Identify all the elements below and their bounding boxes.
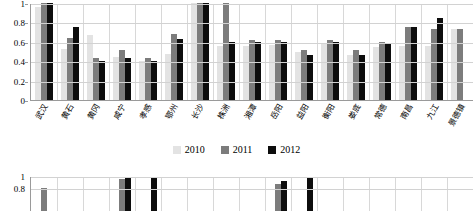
bar-2012 [203, 3, 209, 100]
category-separator [109, 4, 110, 100]
legend-item[interactable]: 2011 [221, 145, 253, 155]
x-tick-label: 武汉 [35, 103, 50, 121]
category-separator [135, 4, 136, 100]
bar-group [57, 177, 83, 211]
bar-group [239, 4, 265, 100]
x-tick-label: 景德镇 [448, 103, 467, 128]
legend-label: 2010 [185, 145, 205, 155]
category-separator [421, 177, 422, 211]
bar-group [265, 4, 291, 100]
x-tick-cell: 长沙 [186, 101, 212, 141]
bar-2012 [411, 27, 417, 100]
bar-group [265, 177, 291, 211]
category-separator [421, 4, 422, 100]
x-tick-label: 长沙 [191, 103, 206, 121]
legend-item[interactable]: 2010 [173, 145, 205, 155]
bar-group [395, 177, 421, 211]
legend-swatch [221, 146, 229, 154]
bar-group [161, 4, 187, 100]
x-tick-cell: 岳阳 [265, 101, 291, 141]
bar-group [343, 4, 369, 100]
legend-item[interactable]: 2012 [268, 145, 300, 155]
bar-group [369, 4, 395, 100]
gridline [31, 177, 473, 178]
x-tick-label: 益阳 [296, 103, 311, 121]
bar-2012 [437, 18, 443, 100]
category-separator [291, 4, 292, 100]
bar-group [213, 4, 239, 100]
y-tick-label: 0.6 [14, 38, 25, 47]
category-separator [213, 4, 214, 100]
y-tick-mark [25, 82, 28, 83]
category-separator [161, 4, 162, 100]
x-tick-cell: 黄石 [56, 101, 82, 141]
y-tick-mark [25, 101, 28, 102]
category-separator [447, 177, 448, 211]
category-separator [369, 177, 370, 211]
bar-group [447, 4, 473, 100]
x-tick-cell: 鄂州 [160, 101, 186, 141]
x-tick-cell: 孝感 [134, 101, 160, 141]
bar-group [135, 4, 161, 100]
category-separator [447, 4, 448, 100]
bar-group [213, 177, 239, 211]
legend-label: 2012 [280, 145, 300, 155]
y-tick-mark [25, 43, 28, 44]
x-tick-label: 株洲 [217, 103, 232, 121]
category-separator [161, 177, 162, 211]
bar-2012 [73, 27, 79, 100]
bar-group [447, 177, 473, 211]
bar-2012 [99, 61, 105, 100]
bar-2012 [125, 58, 131, 100]
bar-group [291, 177, 317, 211]
x-tick-cell: 武汉 [30, 101, 56, 141]
bar-group [291, 4, 317, 100]
category-separator [265, 177, 266, 211]
x-tick-cell: 咸宁 [108, 101, 134, 141]
bar-2012 [333, 42, 339, 100]
bar-2012 [307, 177, 313, 211]
bar-groups-primary [31, 4, 473, 100]
bar-groups-secondary [31, 177, 473, 211]
gridline [31, 23, 473, 24]
bar-group [31, 4, 57, 100]
x-tick-label: 九江 [426, 103, 441, 121]
x-tick-cell: 九江 [421, 101, 447, 141]
bar-group [395, 4, 421, 100]
x-tick-label: 常德 [374, 103, 389, 121]
chart-legend: 201020112012 [0, 141, 473, 159]
x-tick-label: 南昌 [400, 103, 415, 121]
y-axis-labels-secondary: 10.8 [0, 165, 28, 211]
category-separator [187, 4, 188, 100]
bar-group [343, 177, 369, 211]
bar-group [317, 4, 343, 100]
gridline [31, 4, 473, 5]
plot-area-primary [30, 4, 473, 101]
category-separator [109, 177, 110, 211]
figure-page: 00.20.40.60.81 武汉黄石黄冈咸宁孝感鄂州长沙株洲湘潭岳阳益阳衡阳娄… [0, 0, 473, 211]
bar-group [109, 177, 135, 211]
bar-2012 [125, 177, 131, 211]
bar-group [187, 4, 213, 100]
x-tick-cell: 益阳 [291, 101, 317, 141]
y-tick-label: 1 [21, 173, 26, 182]
x-tick-cell: 娄底 [343, 101, 369, 141]
category-separator [317, 4, 318, 100]
legend-swatch [173, 146, 181, 154]
bar-group [161, 177, 187, 211]
bar-group [83, 4, 109, 100]
bar-group [421, 4, 447, 100]
category-separator [135, 177, 136, 211]
bar-group [109, 4, 135, 100]
bar-group [239, 177, 265, 211]
category-separator [57, 177, 58, 211]
x-tick-cell: 南昌 [395, 101, 421, 141]
x-tick-label: 黄冈 [87, 103, 102, 121]
bar-group [135, 177, 161, 211]
bar-chart-secondary-clipped: 10.8 [0, 165, 473, 211]
plot-area-secondary [30, 177, 473, 211]
x-tick-label: 鄂州 [165, 103, 180, 121]
y-axis-labels-primary: 00.20.40.60.81 [0, 0, 28, 101]
gridline [31, 43, 473, 44]
bar-group [369, 177, 395, 211]
